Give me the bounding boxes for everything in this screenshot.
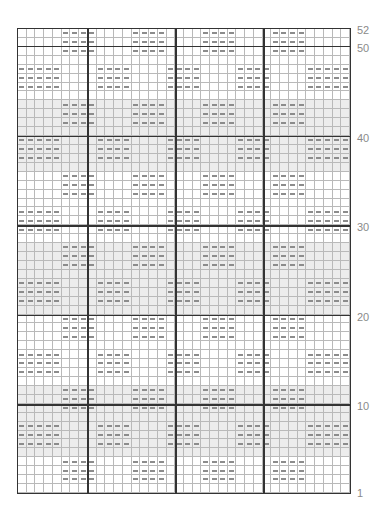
chart-cell xyxy=(341,297,350,306)
chart-cell xyxy=(298,83,307,92)
chart-cell xyxy=(18,279,27,288)
chart-cell xyxy=(132,172,141,181)
chart-cell xyxy=(236,457,245,466)
chart-cell xyxy=(280,288,289,297)
chart-cell xyxy=(324,207,333,216)
chart-cell xyxy=(254,163,263,172)
chart-cell xyxy=(201,91,210,100)
chart-cell xyxy=(167,74,176,83)
chart-cell xyxy=(228,359,237,368)
chart-cell xyxy=(254,181,263,190)
chart-cell xyxy=(289,234,298,243)
chart-cell xyxy=(236,332,245,341)
chart-cell xyxy=(35,234,44,243)
chart-cell xyxy=(62,395,71,404)
chart-cell xyxy=(105,207,114,216)
chart-cell xyxy=(158,368,167,377)
chart-cell xyxy=(88,199,97,208)
chart-cell xyxy=(158,297,167,306)
chart-cell xyxy=(140,368,149,377)
chart-cell xyxy=(210,359,219,368)
chart-cell xyxy=(228,83,237,92)
chart-cell xyxy=(158,323,167,332)
chart-cell xyxy=(324,243,333,252)
chart-cell xyxy=(44,181,53,190)
chart-cell xyxy=(97,181,106,190)
chart-cell xyxy=(132,431,141,440)
chart-cell xyxy=(271,332,280,341)
chart-cell xyxy=(210,190,219,199)
chart-cell xyxy=(149,65,158,74)
chart-cell xyxy=(280,118,289,127)
chart-cell xyxy=(35,91,44,100)
chart-cell xyxy=(324,83,333,92)
chart-cell xyxy=(184,297,193,306)
chart-cell xyxy=(193,484,202,493)
chart-cell xyxy=(70,216,79,225)
chart-cell xyxy=(149,297,158,306)
chart-cell xyxy=(210,83,219,92)
chart-cell xyxy=(123,457,132,466)
chart-cell xyxy=(193,29,202,38)
chart-cell xyxy=(123,216,132,225)
chart-cell xyxy=(245,484,254,493)
chart-cell xyxy=(333,270,342,279)
chart-cell xyxy=(44,288,53,297)
chart-cell xyxy=(158,145,167,154)
chart-cell xyxy=(245,199,254,208)
chart-cell xyxy=(236,297,245,306)
chart-cell xyxy=(306,395,315,404)
chart-cell xyxy=(341,261,350,270)
chart-cell xyxy=(271,91,280,100)
chart-cell xyxy=(315,306,324,315)
chart-cell xyxy=(333,74,342,83)
chart-cell xyxy=(228,47,237,56)
chart-cell xyxy=(315,332,324,341)
chart-cell xyxy=(341,350,350,359)
chart-cell xyxy=(324,172,333,181)
chart-cell xyxy=(62,448,71,457)
chart-cell xyxy=(193,136,202,145)
chart-cell xyxy=(44,154,53,163)
chart-cell xyxy=(341,91,350,100)
chart-cell xyxy=(62,136,71,145)
chart-cell xyxy=(35,163,44,172)
chart-cell xyxy=(201,466,210,475)
chart-cell xyxy=(315,100,324,109)
chart-cell xyxy=(149,350,158,359)
chart-cell xyxy=(167,216,176,225)
chart-cell xyxy=(149,252,158,261)
bold-gridline-horizontal xyxy=(17,225,351,227)
chart-cell xyxy=(114,350,123,359)
chart-cell xyxy=(105,199,114,208)
chart-cell xyxy=(254,475,263,484)
chart-cell xyxy=(193,270,202,279)
chart-cell xyxy=(236,448,245,457)
chart-cell xyxy=(210,279,219,288)
chart-cell xyxy=(236,422,245,431)
chart-cell xyxy=(201,261,210,270)
chart-cell xyxy=(18,154,27,163)
chart-cell xyxy=(158,243,167,252)
chart-cell xyxy=(280,56,289,65)
chart-cell xyxy=(167,457,176,466)
chart-cell xyxy=(53,466,62,475)
chart-cell xyxy=(35,431,44,440)
chart-cell xyxy=(271,181,280,190)
chart-cell xyxy=(105,47,114,56)
chart-cell xyxy=(149,288,158,297)
chart-cell xyxy=(315,136,324,145)
chart-cell xyxy=(114,172,123,181)
chart-cell xyxy=(158,91,167,100)
chart-cell xyxy=(280,65,289,74)
chart-cell xyxy=(280,368,289,377)
chart-cell xyxy=(315,145,324,154)
chart-cell xyxy=(18,484,27,493)
chart-cell xyxy=(341,279,350,288)
chart-cell xyxy=(315,386,324,395)
chart-cell xyxy=(167,234,176,243)
chart-cell xyxy=(114,199,123,208)
chart-cell xyxy=(219,288,228,297)
chart-cell xyxy=(210,154,219,163)
chart-cell xyxy=(70,172,79,181)
